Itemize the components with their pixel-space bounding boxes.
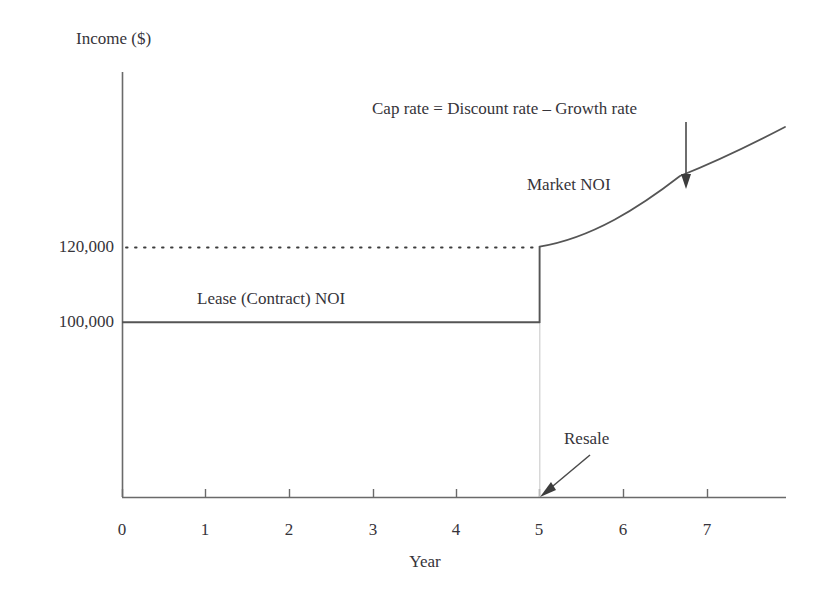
y-tick-label-120000: 120,000 [28, 238, 114, 255]
annotation-lease-contract-noi: Lease (Contract) NOI [197, 290, 345, 307]
annotation-cap-rate-formula: Cap rate = Discount rate – Growth rate [372, 100, 637, 117]
x-tick-label-0: 0 [102, 521, 142, 538]
x-tick-label-1: 1 [185, 521, 225, 538]
x-axis-title: Year [380, 553, 470, 570]
resale-arrow [540, 455, 590, 497]
cap-rate-arrow [681, 122, 691, 189]
x-tick-label-6: 6 [603, 521, 643, 538]
y-tick-label-100000: 100,000 [28, 313, 114, 330]
x-tick-label-3: 3 [353, 521, 393, 538]
annotation-resale: Resale [564, 430, 609, 447]
chart-plot-area [0, 0, 820, 602]
income-noi-chart-figure: Income ($) Year 120,000 100,000 0 1 2 3 … [0, 0, 820, 602]
x-tick-label-5: 5 [519, 521, 559, 538]
x-tick-label-2: 2 [269, 521, 309, 538]
x-tick-label-4: 4 [436, 521, 476, 538]
annotation-market-noi: Market NOI [527, 176, 611, 193]
y-axis-title: Income ($) [76, 30, 151, 47]
x-tick-label-7: 7 [687, 521, 727, 538]
x-axis-ticks [123, 489, 708, 497]
